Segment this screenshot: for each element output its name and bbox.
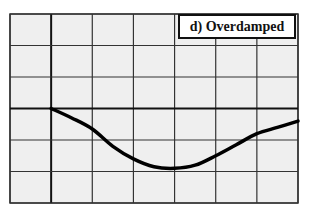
chart-title-box: d) Overdamped xyxy=(178,14,296,39)
chart-title: d) Overdamped xyxy=(190,19,285,35)
